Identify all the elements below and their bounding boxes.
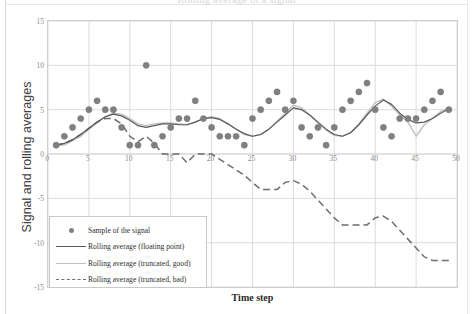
data-point-marker: [69, 124, 75, 130]
data-point-marker: [298, 124, 304, 130]
legend-item-label: Sample of the signal: [88, 226, 150, 235]
legend-item[interactable]: Rolling average (truncated, bad): [54, 272, 202, 289]
legend-item-label: Rolling average (floating point): [88, 242, 184, 251]
data-point-marker: [348, 98, 354, 104]
data-point-marker: [258, 107, 264, 113]
legend-line-light-icon: [54, 263, 88, 264]
data-point-marker: [192, 98, 198, 104]
y-axis-title: Signal and rolling averages: [20, 42, 34, 272]
data-point-marker: [78, 115, 84, 121]
x-axis-tick-label: 15: [158, 154, 182, 163]
dashed-line-icon: [56, 279, 86, 280]
data-point-marker: [364, 80, 370, 86]
data-point-marker: [315, 124, 321, 130]
x-axis-tick-label: 10: [117, 154, 141, 163]
legend-dash-icon: [54, 279, 88, 280]
data-point-marker: [176, 115, 182, 121]
legend-line-icon: [54, 246, 88, 247]
data-point-marker: [110, 107, 116, 113]
data-point-marker: [339, 107, 345, 113]
data-point-marker: [331, 124, 337, 130]
y-axis-tick-label: 15: [14, 17, 44, 26]
legend-item[interactable]: Sample of the signal: [54, 222, 202, 239]
data-point-marker: [61, 133, 67, 139]
data-point-marker: [225, 133, 231, 139]
data-point-marker: [217, 133, 223, 139]
data-point-marker: [184, 115, 190, 121]
x-axis-tick-label: 20: [199, 154, 223, 163]
legend-item[interactable]: Rolling average (truncated, good): [54, 255, 202, 272]
legend-item[interactable]: Rolling average (floating point): [54, 239, 202, 256]
data-point-marker: [388, 133, 394, 139]
data-point-marker: [53, 142, 59, 148]
data-point-marker: [307, 133, 313, 139]
data-point-marker: [249, 115, 255, 121]
x-axis-tick-label: 40: [362, 154, 386, 163]
page-border-left: [5, 0, 6, 314]
solid-line-light-icon: [56, 263, 86, 264]
data-point-marker: [241, 142, 247, 148]
data-point-marker: [438, 89, 444, 95]
legend-item-label: Rolling average (truncated, good): [88, 259, 190, 268]
data-point-marker: [168, 124, 174, 130]
x-axis-tick-label: 45: [403, 154, 427, 163]
data-point-marker: [413, 115, 419, 121]
x-axis-tick-label: 5: [76, 154, 100, 163]
data-point-marker: [119, 124, 125, 130]
x-axis-title: Time step: [47, 292, 458, 303]
dot-icon: [69, 228, 74, 233]
x-axis-tick-label: 50: [444, 154, 468, 163]
data-point-marker: [323, 142, 329, 148]
data-point-marker: [86, 107, 92, 113]
data-point-marker: [421, 107, 427, 113]
x-axis-tick-label: 30: [280, 154, 304, 163]
data-point-marker: [380, 124, 386, 130]
data-point-marker: [282, 107, 288, 113]
data-point-marker: [102, 107, 108, 113]
data-point-marker: [127, 142, 133, 148]
data-point-marker: [266, 98, 272, 104]
data-point-marker: [405, 115, 411, 121]
data-point-marker: [151, 142, 157, 148]
data-point-marker: [209, 124, 215, 130]
chart-title: Rolling average of a signal: [0, 0, 473, 5]
data-point-marker: [429, 98, 435, 104]
data-point-marker: [446, 107, 452, 113]
legend-marker-icon: [54, 228, 88, 233]
data-point-marker: [159, 133, 165, 139]
data-point-marker: [290, 98, 296, 104]
x-axis-ticks: 05101520253035404550: [47, 154, 458, 168]
data-point-marker: [143, 62, 149, 68]
x-axis-tick-label: 0: [35, 154, 59, 163]
data-point-marker: [397, 115, 403, 121]
x-axis-tick-label: 25: [240, 154, 264, 163]
x-axis-tick-label: 35: [321, 154, 345, 163]
data-point-marker: [356, 89, 362, 95]
data-point-marker: [200, 115, 206, 121]
data-point-marker: [372, 107, 378, 113]
legend-item-label: Rolling average (truncated, bad): [88, 275, 186, 284]
chart-page: Rolling average of a signal 151050-5-10-…: [0, 0, 473, 314]
data-point-marker: [274, 89, 280, 95]
solid-line-icon: [56, 246, 86, 247]
data-point-marker: [135, 142, 141, 148]
chart-legend: Sample of the signalRolling average (flo…: [49, 216, 207, 288]
data-point-marker: [94, 98, 100, 104]
y-axis-tick-label: -15: [14, 283, 44, 292]
data-point-marker: [233, 133, 239, 139]
